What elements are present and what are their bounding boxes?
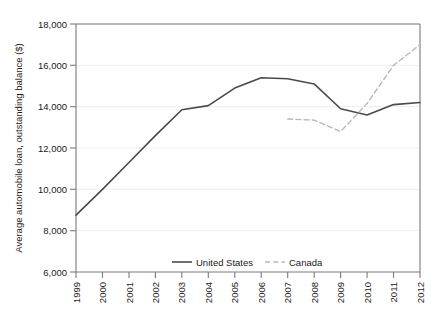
x-tick-label: 2008 — [309, 282, 320, 303]
x-tick-label: 1999 — [71, 282, 82, 303]
x-tick-label: 2009 — [335, 282, 346, 303]
y-tick-label: 6,000 — [43, 267, 67, 278]
y-tick-label: 18,000 — [38, 19, 67, 30]
x-tick-label: 2010 — [362, 282, 373, 303]
y-tick-label: 14,000 — [38, 101, 67, 112]
x-tick-label: 2002 — [150, 282, 161, 303]
y-tick-label: 12,000 — [38, 143, 67, 154]
x-tick-label: 2012 — [415, 282, 426, 303]
line-chart: 18,000 16,000 14,000 12,000 10,000 8,000… — [0, 0, 443, 327]
x-tick-label: 2006 — [256, 282, 267, 303]
legend-label-canada: Canada — [289, 257, 323, 268]
x-tick-label: 2003 — [176, 282, 187, 303]
x-tick-label: 2000 — [97, 282, 108, 303]
x-tick-label: 2001 — [124, 282, 135, 303]
y-tick-label: 8,000 — [43, 225, 67, 236]
x-tick-label: 2011 — [388, 282, 399, 302]
y-tick-label: 16,000 — [38, 60, 67, 71]
x-tick-label: 2007 — [282, 282, 293, 303]
x-tick-label: 2004 — [203, 282, 214, 303]
chart-page: 18,000 16,000 14,000 12,000 10,000 8,000… — [0, 0, 443, 327]
legend-label-united-states: United States — [196, 257, 253, 268]
x-tick-label: 2005 — [229, 282, 240, 303]
y-tick-label: 10,000 — [38, 184, 67, 195]
chart-background — [0, 0, 443, 327]
y-axis-title: Average automobile loan, outstanding bal… — [13, 43, 24, 253]
